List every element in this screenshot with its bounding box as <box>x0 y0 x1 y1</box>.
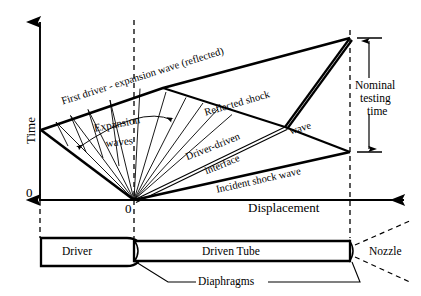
driver-section-label: Driver <box>62 245 92 257</box>
x-axis-label: Displacement <box>248 201 319 215</box>
y-axis-origin-label: 0 <box>26 186 33 200</box>
expansion-head-reflected <box>41 38 350 130</box>
nominal-testing-time-label-line3: time <box>367 105 387 117</box>
x-axis-origin-label: 0 <box>125 202 132 216</box>
diaphragms-label: Diaphragms <box>198 275 254 287</box>
nominal-testing-time-label-line2: testing <box>360 92 391 104</box>
diaphragm-leader-left <box>136 262 196 282</box>
nozzle-upper-line <box>355 220 412 245</box>
reflected-expansion-characteristics <box>56 100 119 166</box>
diaphragm-leader-right <box>268 262 360 282</box>
incident-shock-path <box>134 152 350 200</box>
incident-shock-wave <box>134 152 350 200</box>
reflected-shock-path-upper <box>285 38 350 127</box>
y-axis-label: Time <box>24 117 38 144</box>
nozzle-label: Nozzle <box>369 245 402 257</box>
shock-tube-wave-diagram-figure: Time 0 0 Displacement First driver - exp… <box>0 0 421 296</box>
driven-tube-label: Driven Tube <box>202 245 260 257</box>
nominal-testing-time-label-line1: Nominal <box>355 79 395 91</box>
nozzle-lower-line <box>355 257 412 283</box>
